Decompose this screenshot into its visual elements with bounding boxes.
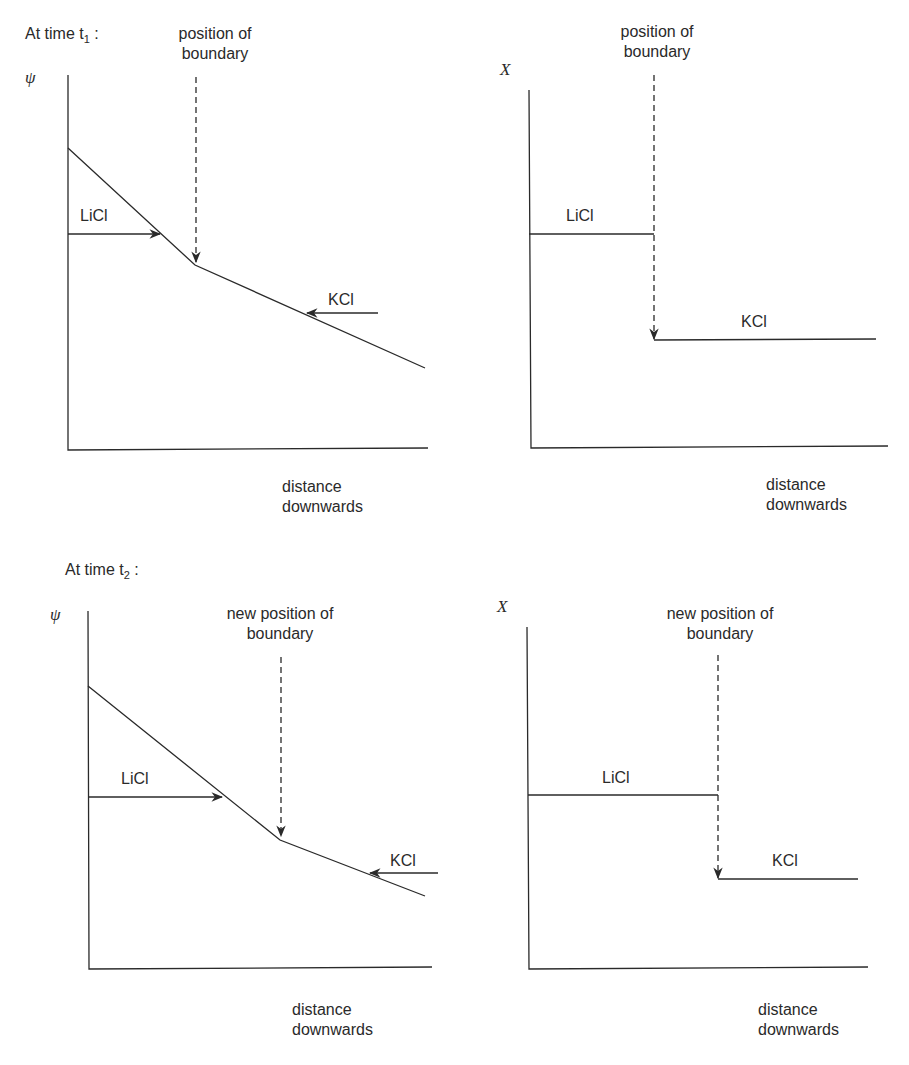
y-axis-label-psi: ψ [50, 605, 61, 625]
panel-t2-concentration [527, 627, 868, 969]
licl-label: LiCl [80, 206, 108, 226]
section-title-t1: At time t1 : [25, 24, 99, 49]
axes [529, 90, 888, 448]
y-axis-label-x: X [500, 60, 510, 80]
boundary-label: new position ofboundary [645, 604, 795, 644]
y-axis-label-psi: ψ [25, 68, 36, 88]
potential-curve [88, 686, 425, 896]
potential-curve [68, 148, 425, 368]
boundary-label: position ofboundary [607, 22, 707, 62]
panel-t1-concentration [529, 75, 888, 448]
axes [68, 75, 428, 450]
section-title-t2: At time t2 : [65, 560, 139, 585]
boundary-label: new position ofboundary [205, 604, 355, 644]
licl-label: LiCl [121, 769, 149, 789]
diagram-canvas [0, 0, 909, 1065]
x-axis-label: distancedownwards [766, 475, 847, 515]
kcl-label: KCl [741, 312, 767, 332]
panel-t2-potential [88, 611, 438, 969]
boundary-label: position ofboundary [155, 24, 275, 64]
kcl-label: KCl [772, 851, 798, 871]
kcl-label: KCl [390, 851, 416, 871]
axes [527, 627, 868, 969]
axes [88, 611, 432, 969]
x-axis-label: distancedownwards [282, 477, 363, 517]
x-axis-label: distancedownwards [292, 1000, 373, 1040]
panel-t1-potential [68, 75, 428, 450]
kcl-label: KCl [328, 290, 354, 310]
licl-label: LiCl [602, 768, 630, 788]
licl-label: LiCl [566, 206, 594, 226]
x-axis-label: distancedownwards [758, 1000, 839, 1040]
kcl-level [654, 339, 876, 340]
y-axis-label-x: X [497, 597, 507, 617]
